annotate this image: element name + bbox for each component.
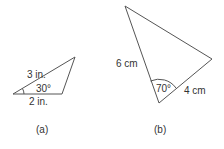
label-angle-70: 70° xyxy=(156,84,171,94)
angle-arc-a xyxy=(22,88,24,94)
caption-b: (b) xyxy=(154,125,166,135)
label-side-2in: 2 in. xyxy=(29,97,48,107)
label-angle-30: 30° xyxy=(36,84,51,94)
caption-a: (a) xyxy=(36,125,48,135)
label-side-4cm: 4 cm xyxy=(184,86,206,96)
label-side-3in: 3 in. xyxy=(27,70,46,80)
label-side-6cm: 6 cm xyxy=(116,59,138,69)
